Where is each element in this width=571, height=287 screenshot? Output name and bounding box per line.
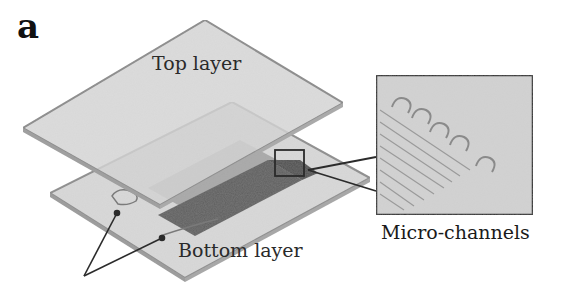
arrow-head-1 [115,211,120,216]
zoom-inset [376,75,533,215]
top-layer-label: Top layer [152,54,241,73]
bottom-layer-label: Bottom layer [178,241,303,260]
arrow-head-2 [160,236,165,241]
figure-root: a [0,0,571,287]
micro-channels-label: Micro-channels [381,223,530,242]
